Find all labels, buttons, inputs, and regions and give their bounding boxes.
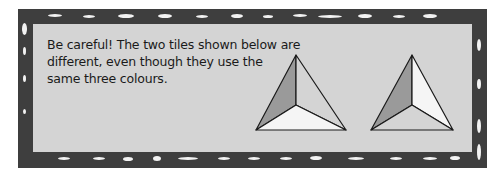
tiles-illustration [0,0,501,175]
right-tile [371,55,453,130]
left-tile [256,55,346,130]
